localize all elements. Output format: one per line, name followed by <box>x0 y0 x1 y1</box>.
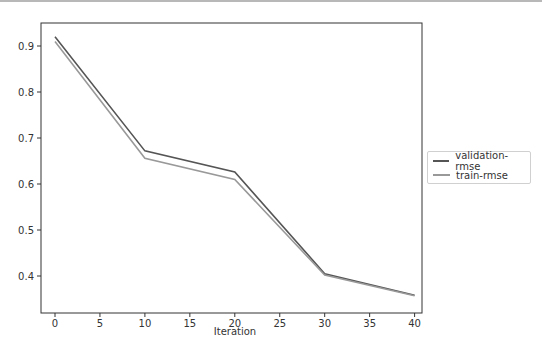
x-tick-label: 0 <box>52 318 58 329</box>
x-tick-label: 40 <box>408 318 421 329</box>
y-tick-label: 0.5 <box>18 225 34 236</box>
legend: validation-rmse train-rmse <box>427 151 531 184</box>
x-tick-label: 25 <box>273 318 286 329</box>
plot-area <box>41 23 422 313</box>
legend-swatch-train <box>433 174 450 176</box>
x-tick-label: 10 <box>139 318 152 329</box>
y-tick-label: 0.8 <box>18 87 34 98</box>
y-axis: 0.90.80.70.60.50.4 <box>18 41 41 282</box>
x-tick-label: 35 <box>363 318 376 329</box>
y-tick-label: 0.4 <box>18 271 34 282</box>
legend-label: train-rmse <box>456 170 508 181</box>
x-tick-label: 30 <box>318 318 331 329</box>
x-tick-label: 15 <box>183 318 196 329</box>
legend-item-validation: validation-rmse <box>428 154 530 168</box>
x-axis-label: Iteration <box>214 326 256 337</box>
legend-swatch-validation <box>433 160 449 162</box>
x-tick-label: 5 <box>97 318 103 329</box>
y-tick-label: 0.9 <box>18 41 34 52</box>
y-tick-label: 0.6 <box>18 179 34 190</box>
y-tick-label: 0.7 <box>18 133 34 144</box>
